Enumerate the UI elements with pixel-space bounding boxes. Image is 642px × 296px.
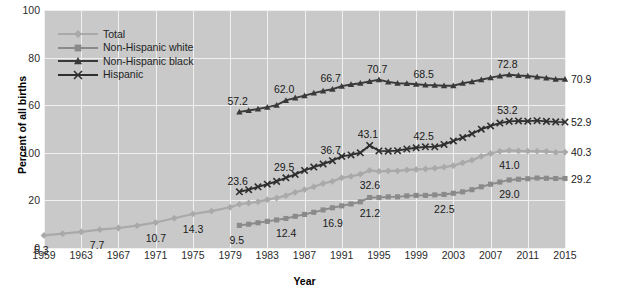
series-non-hispanic-white (237, 175, 568, 227)
series-marker (237, 223, 242, 228)
legend-item-label: Non-Hispanic black (103, 55, 193, 67)
chart-legend: TotalNon-Hispanic whiteNon-Hispanic blac… (58, 27, 193, 81)
series-marker (562, 176, 567, 181)
series-marker (265, 219, 270, 224)
legend-item-non-hispanic-white[interactable]: Non-Hispanic white (58, 41, 193, 55)
series-marker (236, 201, 243, 208)
legend-marker-glyph (72, 55, 84, 67)
series-marker (460, 189, 465, 194)
series-marker (348, 173, 355, 180)
series-marker (479, 184, 484, 189)
data-point-label: 9.5 (229, 235, 244, 246)
series-end-label: 29.2 (571, 174, 591, 185)
series-marker (311, 210, 316, 215)
series-marker (441, 164, 448, 171)
series-marker (423, 193, 428, 198)
series-marker (255, 220, 260, 225)
series-marker (96, 226, 103, 233)
series-marker (450, 162, 457, 169)
legend-marker-diamond-icon (58, 27, 98, 40)
series-marker (394, 167, 401, 174)
series-marker (246, 222, 251, 227)
series-marker (264, 196, 271, 203)
series-marker (376, 195, 381, 200)
data-point-label: 36.7 (320, 145, 340, 156)
series-marker (404, 193, 409, 198)
legend-item-non-hispanic-black[interactable]: Non-Hispanic black (58, 54, 193, 68)
series-marker (469, 157, 476, 164)
y-axis-title: Percent of all births (16, 45, 28, 205)
series-marker (329, 178, 336, 185)
series-marker (321, 207, 326, 212)
series-hispanic (236, 117, 568, 195)
data-point-label: 16.9 (322, 218, 342, 229)
data-point-label: 12.4 (276, 228, 296, 239)
legend-marker-glyph (72, 69, 84, 81)
data-point-label: 42.5 (413, 131, 433, 142)
series-end-label: 40.3 (571, 147, 591, 158)
series-marker (293, 214, 298, 219)
y-axis-tick-label: 100 (0, 5, 40, 16)
series-marker (507, 177, 512, 182)
series-marker (302, 212, 307, 217)
series-marker (357, 171, 364, 178)
legend-marker-glyph (72, 28, 84, 40)
series-marker (451, 191, 456, 196)
data-point-label: 14.3 (183, 224, 203, 235)
data-point-label: 70.7 (367, 64, 387, 75)
series-marker (339, 203, 344, 208)
data-point-label: 29.0 (499, 189, 519, 200)
series-marker (134, 222, 141, 229)
legend-item-label: Non-Hispanic white (103, 41, 193, 53)
series-marker (292, 189, 299, 196)
series-marker (525, 176, 530, 181)
series-marker (301, 186, 308, 193)
series-marker (282, 192, 289, 199)
series-marker (78, 228, 85, 235)
series-marker (432, 192, 437, 197)
data-point-label: 53.2 (497, 105, 517, 116)
series-marker (152, 219, 159, 226)
series-marker (543, 148, 550, 155)
series-marker (515, 147, 522, 154)
series-marker (487, 150, 494, 157)
x-axis-tick-label: 2015 (542, 250, 588, 261)
data-point-label: 43.1 (358, 129, 378, 140)
series-marker (413, 166, 420, 173)
series-marker (255, 198, 262, 205)
series-marker (310, 183, 317, 190)
series-marker (524, 148, 531, 155)
series-marker (442, 192, 447, 197)
series-end-label: 52.9 (571, 117, 591, 128)
series-marker (245, 200, 252, 207)
series-marker (227, 204, 234, 211)
series-marker (431, 165, 438, 172)
legend-marker-glyph (72, 42, 84, 54)
series-marker (320, 180, 327, 187)
series-marker (189, 211, 196, 218)
data-point-label: 21.2 (360, 208, 380, 219)
data-point-label: 57.2 (227, 96, 247, 107)
series-marker (497, 180, 502, 185)
series-marker (274, 217, 279, 222)
series-marker (544, 176, 549, 181)
data-point-label: 10.7 (146, 233, 166, 244)
data-point-label: 66.7 (320, 73, 340, 84)
legend-item-total[interactable]: Total (58, 27, 193, 41)
series-marker (562, 149, 569, 156)
series-marker (366, 167, 373, 174)
series-marker (208, 208, 215, 215)
legend-item-label: Total (103, 28, 125, 40)
series-marker (273, 195, 280, 202)
series-marker (478, 153, 485, 160)
series-marker (553, 176, 558, 181)
legend-marker-square-icon (58, 41, 98, 54)
data-point-label: 41.0 (499, 160, 519, 171)
gridline-vertical (565, 10, 566, 248)
data-point-label: 62.0 (274, 84, 294, 95)
series-marker (516, 177, 521, 182)
legend-item-label: Hispanic (103, 68, 143, 80)
legend-item-hispanic[interactable]: Hispanic (58, 68, 193, 82)
series-marker (422, 166, 429, 173)
series-marker (534, 148, 541, 155)
